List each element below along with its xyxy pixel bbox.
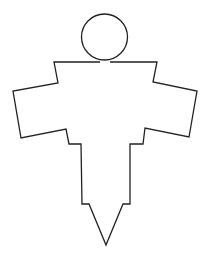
figure-body-outline bbox=[13, 62, 197, 245]
figure-head-circle bbox=[82, 14, 128, 60]
figure-canvas bbox=[0, 0, 211, 261]
figure-svg bbox=[0, 0, 211, 261]
